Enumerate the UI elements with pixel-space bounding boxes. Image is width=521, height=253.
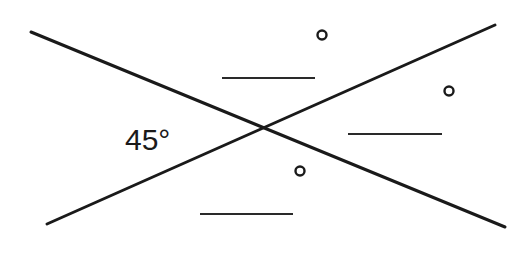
given-angle-label: 45° xyxy=(125,123,170,156)
degree-symbol-right xyxy=(445,87,454,96)
degree-symbol-bottom xyxy=(296,167,305,176)
intersecting-lines-diagram: 45° xyxy=(0,0,521,253)
degree-symbol-top xyxy=(318,31,327,40)
line-a xyxy=(31,32,505,227)
